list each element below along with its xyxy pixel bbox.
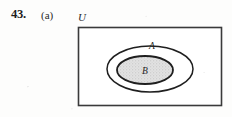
venn-diagram-figure: 43. (a) U A B xyxy=(0,0,232,117)
set-a-label: A xyxy=(148,41,155,51)
venn-diagram-graphic: A B xyxy=(0,0,232,117)
set-b-label: B xyxy=(142,66,148,76)
